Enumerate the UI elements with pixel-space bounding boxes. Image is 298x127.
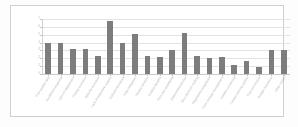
bar xyxy=(70,49,76,74)
bar xyxy=(83,49,89,74)
y-tick-label: 3 xyxy=(38,49,40,52)
y-tick xyxy=(40,43,42,44)
plot-area xyxy=(42,19,290,74)
bar xyxy=(219,57,225,74)
y-tick xyxy=(40,50,42,51)
y-tick-label: 6 xyxy=(38,25,40,28)
bar xyxy=(157,57,163,74)
y-tick-label: 4 xyxy=(38,41,40,44)
chart-figure: 01234567 Poor quality dataInsufficient e… xyxy=(0,0,298,127)
bar xyxy=(145,56,151,74)
bar xyxy=(107,21,113,74)
y-tick xyxy=(40,58,42,59)
y-tick-label: 5 xyxy=(38,33,40,36)
bar xyxy=(45,43,51,74)
x-tick-label: Other issues xyxy=(274,76,286,93)
x-axis xyxy=(42,74,290,75)
bar xyxy=(207,58,213,74)
y-tick xyxy=(40,27,42,28)
y-tick xyxy=(40,19,42,20)
y-tick-label: 7 xyxy=(38,17,40,20)
bar xyxy=(182,33,188,74)
bar xyxy=(120,43,126,74)
bar xyxy=(132,34,138,74)
y-tick-label: 2 xyxy=(38,57,40,60)
bar xyxy=(281,50,287,74)
bar xyxy=(231,65,237,74)
chart-frame: 01234567 Poor quality dataInsufficient e… xyxy=(10,5,284,117)
bar xyxy=(169,50,175,74)
y-tick xyxy=(40,66,42,67)
bar xyxy=(95,56,101,74)
y-axis: 01234567 xyxy=(42,19,43,75)
y-tick-label: 1 xyxy=(38,65,40,68)
bar xyxy=(194,56,200,74)
y-tick-label: 0 xyxy=(38,72,40,75)
bar xyxy=(244,61,250,74)
y-tick xyxy=(40,35,42,36)
bar-series xyxy=(42,19,290,74)
x-axis-labels: Poor quality dataInsufficient expertiseC… xyxy=(42,76,290,122)
bar xyxy=(58,43,64,74)
bar xyxy=(269,50,275,74)
bar xyxy=(256,67,262,74)
